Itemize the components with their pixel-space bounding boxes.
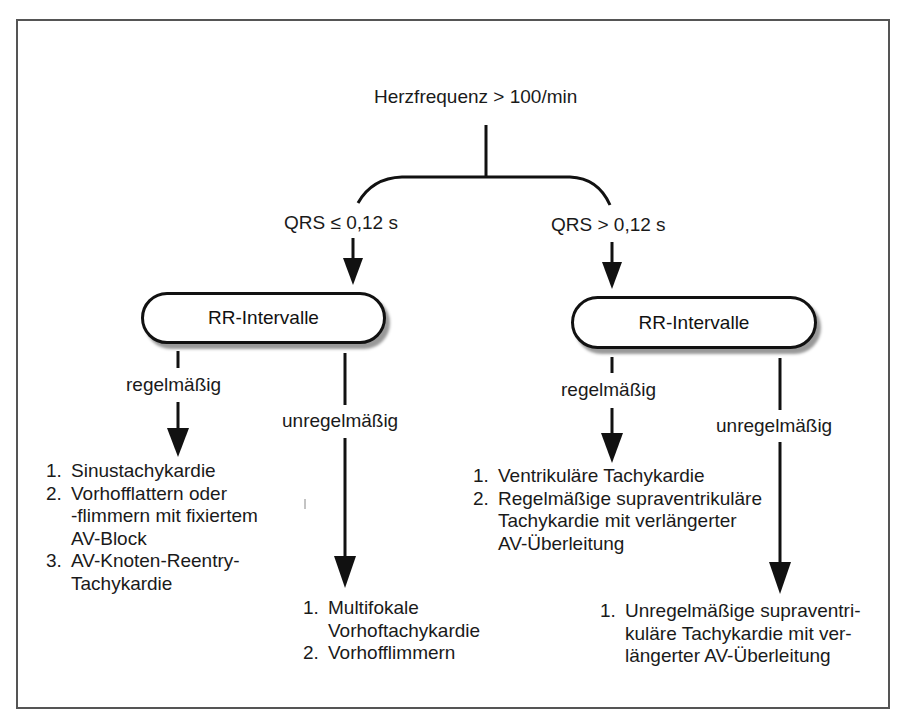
root-label: Herzfrequenz > 100/min [374,86,577,108]
list-item: 3.AV-Knoten-Reentry- Tachykardie [46,550,258,595]
right-rr-interval-node: RR-Intervalle [571,296,817,349]
list-item: 1.Sinustachykardie [46,460,258,483]
left-regular-diagnoses: 1.Sinustachykardie 2.Vorhofflattern oder… [46,460,258,595]
list-item: 2.Vorhofflimmern [303,642,480,665]
right-irregular-diagnoses: 1.Unregelmäßige supraventri- kuläre Tach… [600,600,861,668]
left-rr-interval-node: RR-Intervalle [141,292,386,344]
list-item: 1.Multifokale Vorhoftachykardie [303,597,480,642]
list-item: 1.Ventrikuläre Tachykardie [473,465,762,488]
right-regular-diagnoses: 1.Ventrikuläre Tachykardie 2.Regelmäßige… [473,465,762,555]
left-regular-label: regelmäßig [126,374,221,396]
left-irregular-diagnoses: 1.Multifokale Vorhoftachykardie 2.Vorhof… [303,597,480,665]
right-irregular-label: unregelmäßig [716,415,832,437]
right-condition-label: QRS > 0,12 s [551,214,666,236]
left-condition-label: QRS ≤ 0,12 s [284,212,398,234]
list-item: 2.Vorhofflattern oder -flimmern mit fixi… [46,483,258,551]
list-item: 1.Unregelmäßige supraventri- kuläre Tach… [600,600,861,668]
list-item: 2.Regelmäßige supraventrikuläre Tachykar… [473,488,762,556]
right-regular-label: regelmäßig [561,379,656,401]
left-irregular-label: unregelmäßig [282,410,398,432]
